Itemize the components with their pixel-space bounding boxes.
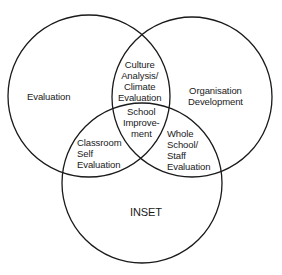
center-line-1: School (123, 106, 160, 117)
org-label-line-1: Organisation (188, 85, 243, 96)
whole-line-3: Staff (167, 150, 210, 161)
culture-line-3: Climate (118, 81, 161, 92)
whole-line-1: Whole (167, 128, 210, 139)
inset-label: INSET (130, 206, 162, 218)
evaluation-label: Evaluation (27, 91, 70, 102)
center-line-3: ment (123, 128, 160, 139)
whole-school-staff-evaluation-label: Whole School/ Staff Evaluation (167, 128, 210, 172)
classroom-line-1: Classroom (77, 137, 122, 148)
classroom-self-evaluation-label: Classroom Self Evaluation (77, 137, 122, 170)
culture-line-1: Culture (118, 59, 161, 70)
school-improvement-label: School Improve- ment (123, 106, 160, 139)
evaluation-label-text: Evaluation (27, 91, 70, 102)
inset-label-text: INSET (130, 206, 162, 218)
center-line-2: Improve- (123, 117, 160, 128)
organisation-development-label: Organisation Development (188, 85, 243, 107)
classroom-line-2: Self (77, 148, 122, 159)
whole-line-4: Evaluation (167, 161, 210, 172)
org-label-line-2: Development (188, 96, 243, 107)
culture-line-4: Evaluation (118, 92, 161, 103)
culture-line-2: Analysis/ (118, 70, 161, 81)
classroom-line-3: Evaluation (77, 159, 122, 170)
whole-line-2: School/ (167, 139, 210, 150)
culture-analysis-label: Culture Analysis/ Climate Evaluation (118, 59, 161, 103)
venn-diagram: Evaluation Organisation Development INSE… (0, 0, 282, 275)
